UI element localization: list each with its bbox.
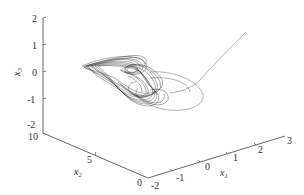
- x3-tick-0: 0: [32, 67, 37, 78]
- x2-tick-10: 10: [28, 131, 38, 142]
- x1-tick-neg1: -1: [176, 172, 184, 183]
- x1-tick-2: 2: [258, 144, 263, 155]
- x2-axis: 10 5 0 x2: [28, 131, 148, 188]
- svg-text:x3: x3: [11, 68, 24, 77]
- attractor-plot: 2 1 0 -1 -2 x3 10 5 0 x2 -2 -1 0 1 2 3 x…: [0, 0, 304, 195]
- x2-tick-0: 0: [137, 177, 142, 188]
- x3-tick-neg2: -2: [27, 119, 35, 130]
- x1-axis-label: x1: [219, 167, 228, 180]
- x3-axis: 2 1 0 -1 -2 x3: [11, 13, 46, 133]
- x1-tick-neg2: -2: [151, 180, 159, 191]
- x1-tick-0: 0: [205, 161, 210, 172]
- x2-tick-5: 5: [87, 154, 92, 165]
- x3-tick-1: 1: [32, 40, 37, 51]
- x1-axis: -2 -1 0 1 2 3 x1: [148, 135, 292, 191]
- x1-tick-1: 1: [233, 152, 238, 163]
- attractor-trajectory: [82, 32, 246, 110]
- x1-tick-3: 3: [287, 135, 292, 146]
- x3-axis-label: x3: [11, 68, 24, 77]
- x3-tick-2: 2: [32, 13, 37, 24]
- x2-axis-label: x2: [73, 166, 82, 179]
- x3-tick-neg1: -1: [27, 94, 35, 105]
